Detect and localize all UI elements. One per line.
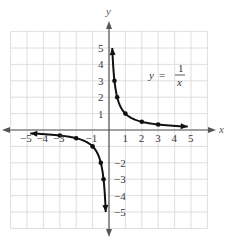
data-point [123,111,128,116]
y-tick-label: 4 [98,58,104,70]
data-point [115,95,120,100]
y-tick-label: 1 [98,108,104,120]
x-axis-arrow-right-icon [208,127,216,133]
x-tick-label: 5 [188,132,194,144]
y-axis-label: y [105,5,111,17]
y-tick-label: −5 [114,206,126,218]
reciprocal-function-graph: −5−4−3−11234554321−2−3−4−5 x y y = 1 x [0,0,227,244]
x-tick-label: 4 [172,132,178,144]
x-tick-label: 2 [139,132,145,144]
curve-arrow-icon [110,48,116,55]
data-point [101,177,106,182]
y-tick-label: 5 [98,42,104,54]
data-point [99,161,104,166]
y-tick-label: 3 [98,75,104,87]
y-axis-arrow-up-icon [106,21,112,29]
x-tick-label: 3 [155,132,161,144]
x-tick-label: 1 [122,132,128,144]
x-axis-arrow-left-icon [2,127,10,133]
equation-equals: = [159,69,165,81]
x-tick-label: −3 [53,132,65,144]
x-tick-label: −1 [86,132,98,144]
equation-denominator: x [176,76,182,88]
equation-numerator: 1 [178,62,184,74]
x-axis-label: x [218,123,224,135]
y-axis-arrow-down-icon [106,229,112,237]
x-tick-label: −5 [20,132,32,144]
curve-arrow-icon [102,205,108,212]
equation-lhs: y [148,69,154,81]
data-point [156,122,161,127]
y-tick-label: −2 [114,157,126,169]
data-point [140,120,145,125]
y-tick-label: −4 [114,190,126,202]
data-point [90,144,95,149]
data-point [112,79,117,84]
y-tick-label: 2 [98,91,104,103]
x-tick-label: −4 [36,132,48,144]
axes [2,21,216,237]
curve-arrow-icon [181,123,188,129]
y-tick-label: −3 [114,173,126,185]
equation-label: y = 1 x [148,62,185,88]
data-point [74,136,79,141]
